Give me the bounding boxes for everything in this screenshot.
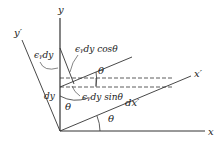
eps-dy-label: ϵᵧdy xyxy=(34,50,54,60)
theta-arc-bottom xyxy=(97,116,100,131)
theta-mid-label: θ xyxy=(65,101,71,112)
x-prime-axis-label: x′ xyxy=(194,68,203,79)
theta-top-label: θ xyxy=(98,65,104,76)
y-prime-axis-label: y′ xyxy=(13,27,23,38)
strain-diagram: y x x′ y′ ϵᵧdy ϵᵧdy cosθ ϵᵧdy sinθ dy dx… xyxy=(0,0,218,152)
y-axis-label: y xyxy=(57,4,64,15)
pointer-eps-cos xyxy=(70,55,78,72)
eps-dy-sin-label: ϵᵧdy sinθ xyxy=(82,92,123,102)
eps-dy-cos-label: ϵᵧdy cosθ xyxy=(75,44,118,54)
pointer-eps-dy xyxy=(40,62,58,69)
x-axis-label: x xyxy=(208,126,214,137)
dy-label: dy xyxy=(44,91,56,101)
dx-prime-label: dx′ xyxy=(125,97,140,108)
theta-bottom-label: θ xyxy=(108,113,114,124)
pointer-eps-sin xyxy=(72,86,80,96)
